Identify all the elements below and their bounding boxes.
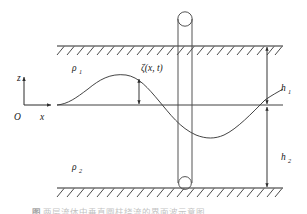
- top-boundary: [57, 46, 283, 55]
- axis-label-z: z: [16, 73, 21, 83]
- depth-upper-subscript: 1: [288, 88, 291, 95]
- depth-lower-subscript: 2: [288, 157, 291, 164]
- interfacial-wave-curve: [57, 75, 283, 138]
- density-upper-subscript: 1: [79, 68, 82, 75]
- figure-root: z x O ζ(x, t) ρ 1 ρ 2 h: [0, 0, 307, 214]
- bottom-boundary: [57, 188, 283, 197]
- two-layer-fluid-diagram: z x O ζ(x, t) ρ 1 ρ 2 h: [0, 0, 307, 214]
- vertical-cylinder: [178, 12, 192, 190]
- axis-label-x: x: [39, 112, 45, 122]
- depth-lower-dimension: h 2: [267, 107, 291, 187]
- top-boundary-hatching: [57, 47, 282, 56]
- figure-caption-strip: 图 两层流体中垂直圆柱绕流的界面波示意图: [0, 205, 307, 214]
- depth-lower-symbol: h: [281, 152, 286, 162]
- upper-density-label: ρ 1: [71, 63, 82, 75]
- density-lower-symbol: ρ: [71, 162, 77, 172]
- density-upper-symbol: ρ: [71, 63, 77, 73]
- figure-caption: 图 两层流体中垂直圆柱绕流的界面波示意图: [32, 205, 205, 214]
- cylinder-top-cap: [178, 12, 192, 26]
- depth-upper-dimension: h 1: [267, 47, 291, 104]
- wave-elevation-label: ζ(x, t): [141, 63, 163, 74]
- figure-caption-number: 图: [32, 207, 41, 214]
- lower-density-label: ρ 2: [71, 162, 82, 174]
- coordinate-axes: z x O: [14, 73, 51, 122]
- depth-upper-symbol: h: [281, 83, 286, 93]
- density-lower-subscript: 2: [79, 167, 82, 174]
- axis-label-origin: O: [14, 112, 21, 122]
- figure-caption-text: 两层流体中垂直圆柱绕流的界面波示意图: [43, 207, 205, 214]
- bottom-boundary-hatching: [57, 189, 282, 198]
